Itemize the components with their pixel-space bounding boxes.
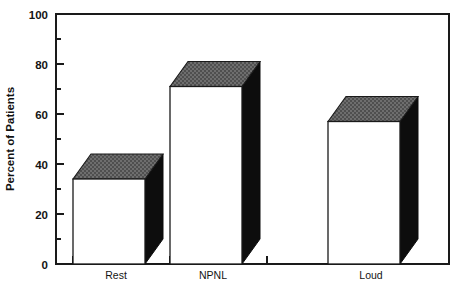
x-tick-label-loud: Loud [359, 269, 383, 281]
y-tick-label-80: 80 [35, 59, 48, 71]
bar-rest [73, 154, 163, 264]
bar-npnl-front-face [170, 87, 242, 265]
y-tick-label-100: 100 [29, 9, 48, 21]
y-axis-ticks [56, 14, 64, 264]
x-tick-label-rest: Rest [105, 269, 127, 281]
y-axis-title-group: Percent of Patients [4, 87, 16, 191]
y-tick-label-0: 0 [42, 259, 48, 271]
x-tick-label-npnl: NPNL [199, 269, 227, 281]
chart-canvas: 100 80 60 40 20 0 Percent of Patients [0, 0, 459, 293]
bar-loud-front-face [328, 122, 400, 265]
y-axis-tick-labels: 100 80 60 40 20 0 [29, 9, 48, 271]
bar-rest-front-face [73, 179, 145, 264]
y-tick-label-60: 60 [35, 109, 48, 121]
y-tick-label-20: 20 [35, 209, 48, 221]
y-tick-label-40: 40 [35, 159, 48, 171]
bar-loud-side-face [400, 97, 418, 265]
bar-chart-figure: 100 80 60 40 20 0 Percent of Patients [0, 0, 459, 293]
y-axis-title: Percent of Patients [4, 87, 16, 191]
bar-npnl [170, 62, 260, 265]
x-axis-tick-labels: Rest NPNL Loud [105, 269, 383, 281]
bar-npnl-side-face [242, 62, 260, 265]
bar-loud [328, 97, 418, 265]
